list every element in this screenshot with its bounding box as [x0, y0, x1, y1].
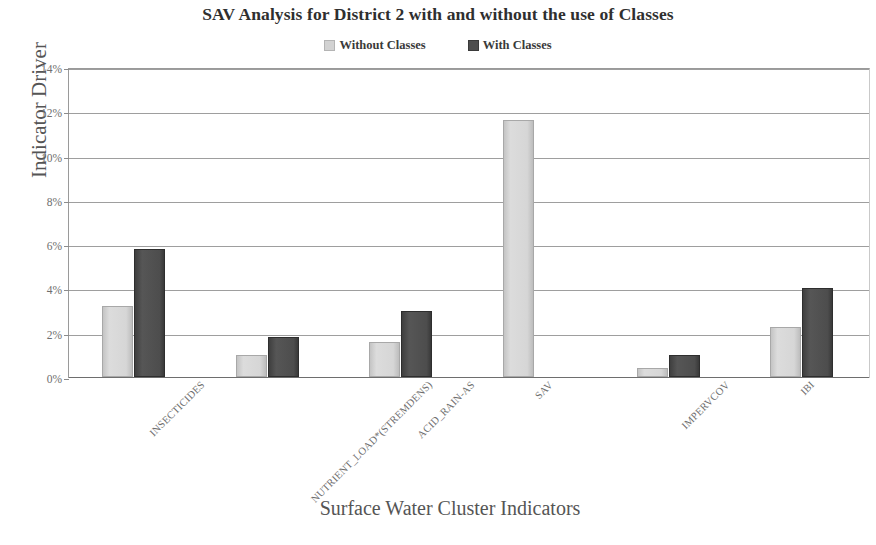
- bar-without-classes[interactable]: [637, 368, 668, 377]
- bar-with-classes[interactable]: [401, 311, 432, 377]
- bar-with-classes[interactable]: [268, 337, 299, 377]
- y-axis-tick-label: 0%: [47, 373, 62, 385]
- x-axis-tick-label: IMPERVCOV: [679, 379, 731, 431]
- x-axis-tick-label: IBI: [799, 379, 817, 397]
- sav-analysis-bar-chart: SAV Analysis for District 2 with and wit…: [0, 0, 876, 545]
- y-axis-tick-label: 8%: [47, 196, 62, 208]
- x-axis-tick-label: NUTRIENT_LOAD*(STREMDENS): [308, 379, 434, 505]
- legend-label-without-classes: Without Classes: [339, 38, 425, 53]
- bar-with-classes[interactable]: [669, 355, 700, 377]
- bar-group: [632, 68, 766, 377]
- x-axis-tick-label: SAV: [533, 379, 555, 401]
- bar-group: [97, 68, 231, 377]
- bar-group: [231, 68, 365, 377]
- bar-group: [765, 68, 876, 377]
- y-axis-tick-label: 2%: [47, 329, 62, 341]
- legend-label-with-classes: With Classes: [483, 38, 552, 53]
- bar-groups: [69, 69, 869, 378]
- bar-without-classes[interactable]: [236, 355, 267, 377]
- x-axis-tick-label: INSECTICIDES: [147, 379, 206, 438]
- y-axis-tick-label: 4%: [47, 284, 62, 296]
- legend-item-with-classes[interactable]: With Classes: [468, 38, 552, 53]
- light-square-icon: [324, 40, 335, 51]
- y-axis-tick-label: 6%: [47, 240, 62, 252]
- bar-without-classes[interactable]: [770, 327, 801, 377]
- x-axis-title: Surface Water Cluster Indicators: [100, 497, 800, 520]
- bar-without-classes[interactable]: [369, 342, 400, 377]
- y-axis-tick-label: 12%: [41, 107, 62, 119]
- dark-square-icon: [468, 40, 479, 51]
- bar-group: [364, 68, 498, 377]
- legend-item-without-classes[interactable]: Without Classes: [324, 38, 425, 53]
- bar-with-classes[interactable]: [802, 288, 833, 377]
- chart-title: SAV Analysis for District 2 with and wit…: [0, 4, 876, 25]
- bar-without-classes[interactable]: [102, 306, 133, 377]
- x-axis-tick-labels: INSECTICIDESNUTRIENT_LOAD*(STREMDENS)ACI…: [68, 379, 870, 499]
- y-axis-tick-label: 14%: [41, 63, 62, 75]
- bar-with-classes[interactable]: [134, 249, 165, 377]
- chart-legend: Without Classes With Classes: [0, 38, 876, 53]
- plot-area: 14%12%10%8%6%4%2%0%: [68, 68, 870, 378]
- bar-group: [498, 68, 632, 377]
- bar-without-classes[interactable]: [503, 120, 534, 377]
- y-axis-tick-label: 10%: [41, 152, 62, 164]
